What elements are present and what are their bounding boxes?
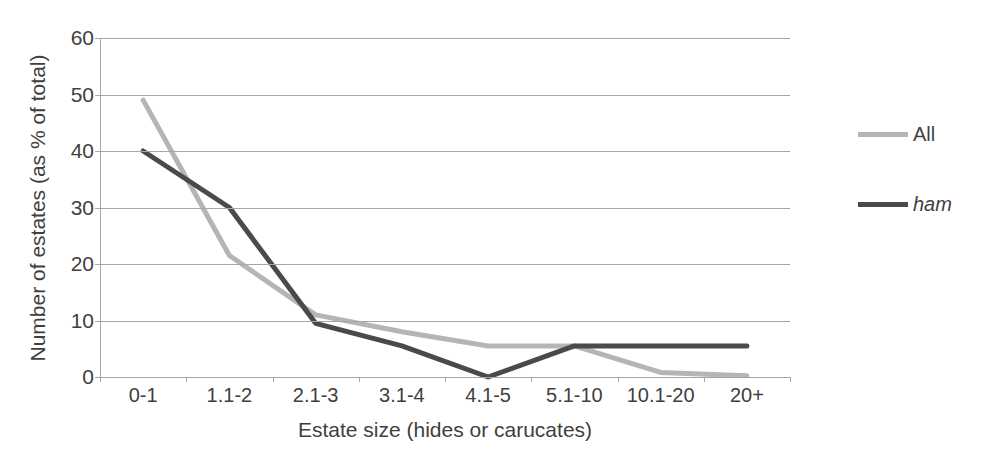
y-axis-tick-label: 0: [82, 365, 94, 389]
y-axis-tick-label: 30: [71, 196, 94, 220]
legend-label: ham: [913, 193, 952, 216]
y-axis-tick-labels: 0102030405060: [52, 38, 94, 377]
x-axis-tick-label: 10.1-20: [627, 384, 695, 407]
legend-item-all[interactable]: All: [858, 122, 983, 146]
y-axis-tick-label: 20: [71, 252, 94, 276]
x-axis-tick-label: 3.1-4: [379, 384, 425, 407]
x-axis-tick-label: 5.1-10: [546, 384, 603, 407]
x-tick-mark: [445, 377, 446, 382]
series-line-all: [143, 100, 747, 376]
x-axis-tick-label: 4.1-5: [465, 384, 511, 407]
line-chart: Number of estates (as % of total) 010203…: [0, 0, 989, 468]
y-axis-tick-label: 60: [71, 26, 94, 50]
x-axis-tick-label: 1.1-2: [207, 384, 253, 407]
x-axis-tick-labels: 0-11.1-22.1-33.1-44.1-55.1-1010.1-2020+: [100, 384, 790, 414]
y-tick-mark: [95, 208, 100, 209]
x-axis-tick-label: 2.1-3: [293, 384, 339, 407]
x-axis-tick-label: 0-1: [129, 384, 158, 407]
legend-swatch-icon: [858, 132, 908, 137]
gridline: [100, 208, 790, 209]
x-axis-title: Estate size (hides or carucates): [100, 418, 790, 442]
legend-swatch-icon: [858, 202, 908, 207]
x-tick-mark: [704, 377, 705, 382]
gridline: [100, 38, 790, 39]
y-tick-mark: [95, 321, 100, 322]
y-tick-mark: [95, 38, 100, 39]
x-tick-mark: [100, 377, 101, 382]
y-axis-tick-label: 10: [71, 309, 94, 333]
x-tick-mark: [618, 377, 619, 382]
legend-label: All: [913, 123, 935, 146]
x-tick-mark: [186, 377, 187, 382]
x-tick-mark: [359, 377, 360, 382]
plot-area: [100, 38, 790, 377]
x-axis-tick-label: 20+: [730, 384, 764, 407]
y-axis-tick-label: 40: [71, 139, 94, 163]
chart-legend: Allham: [858, 122, 983, 262]
y-axis-tick-label: 50: [71, 83, 94, 107]
x-tick-mark: [531, 377, 532, 382]
y-tick-mark: [95, 264, 100, 265]
gridline: [100, 264, 790, 265]
gridline: [100, 321, 790, 322]
y-tick-mark: [95, 95, 100, 96]
gridline: [100, 95, 790, 96]
x-tick-mark: [273, 377, 274, 382]
y-axis-title: Number of estates (as % of total): [26, 18, 50, 398]
y-tick-mark: [95, 151, 100, 152]
legend-item-ham[interactable]: ham: [858, 192, 983, 216]
x-tick-mark: [790, 377, 791, 382]
gridline: [100, 151, 790, 152]
